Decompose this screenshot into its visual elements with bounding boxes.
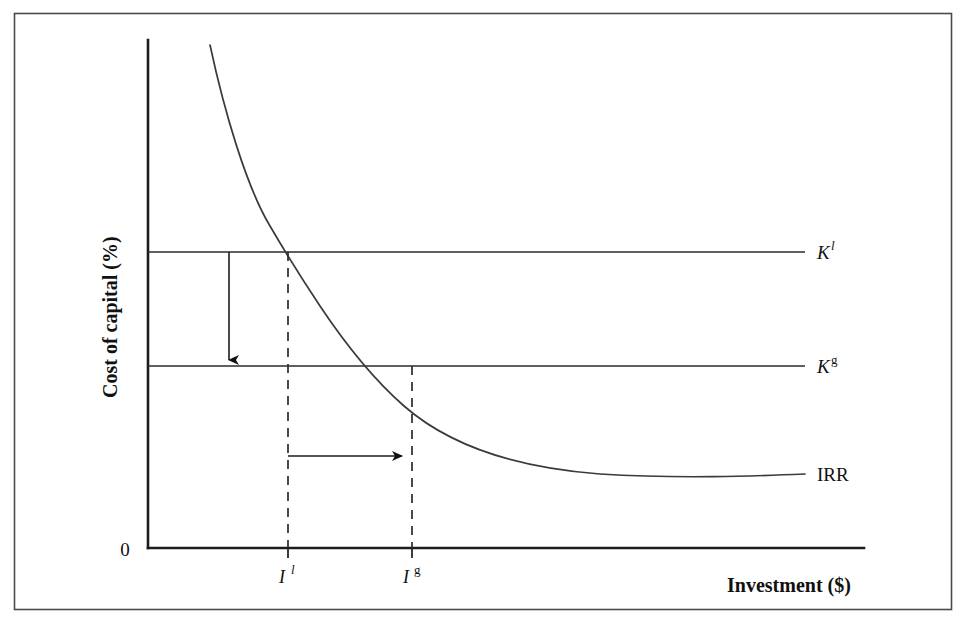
series-label-irr: IRR bbox=[817, 464, 849, 485]
figure-border bbox=[15, 14, 952, 610]
series-label-irr-base: IRR bbox=[817, 464, 849, 485]
series-label-k-local: K l bbox=[816, 238, 835, 263]
x-tick-label-i-local-base: I bbox=[278, 567, 286, 587]
x-tick-label-i-global-sup: g bbox=[414, 562, 421, 577]
y-axis-title: Cost of capital (%) bbox=[99, 236, 122, 398]
series-label-k-global: K g bbox=[816, 352, 838, 377]
series-label-k-global-base: K bbox=[816, 356, 831, 377]
x-tick-label-i-global: I g bbox=[402, 562, 421, 587]
x-tick-label-i-global-base: I bbox=[402, 567, 410, 587]
x-tick-label-i-local-sup: l bbox=[291, 562, 295, 577]
x-axis-title: Investment ($) bbox=[727, 574, 851, 597]
x-tick-label-i-local: I l bbox=[278, 562, 295, 587]
irr-curve bbox=[210, 45, 805, 477]
series-label-k-local-sup: l bbox=[831, 238, 835, 253]
origin-label: 0 bbox=[120, 539, 130, 560]
series-label-k-global-sup: g bbox=[831, 352, 838, 367]
figure-root: Cost of capital (%) Investment ($) 0 I l… bbox=[0, 0, 961, 631]
diagram-canvas: Cost of capital (%) Investment ($) 0 I l… bbox=[0, 0, 961, 631]
series-label-k-local-base: K bbox=[816, 242, 831, 263]
